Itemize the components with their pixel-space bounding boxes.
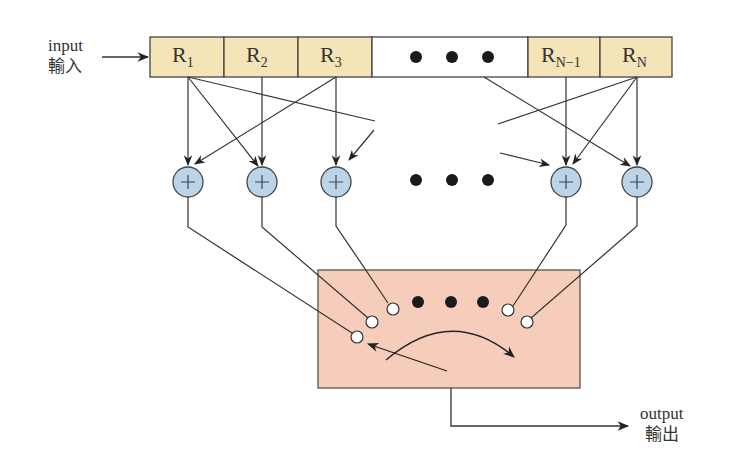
tap-connections bbox=[188, 77, 637, 166]
adder-3 bbox=[321, 167, 351, 197]
register-rn-1-label: RN−1 bbox=[541, 43, 581, 75]
commutator-box bbox=[318, 270, 580, 388]
adder-1 bbox=[173, 167, 203, 197]
output-label: output bbox=[640, 405, 683, 423]
output-arrow bbox=[451, 388, 628, 426]
input-label: input bbox=[48, 37, 83, 55]
adder-2 bbox=[247, 167, 277, 197]
input-label-zh: 輸入 bbox=[48, 57, 82, 75]
register-r3-label: R3 bbox=[320, 43, 342, 75]
register-r1-label: R1 bbox=[172, 43, 194, 75]
adder-5 bbox=[622, 167, 652, 197]
adder-4 bbox=[551, 167, 581, 197]
adder-ellipsis-dots bbox=[410, 174, 494, 186]
output-label-zh: 輸出 bbox=[645, 425, 679, 443]
register-rn-label: RN bbox=[622, 43, 647, 75]
register-r2-label: R2 bbox=[246, 43, 268, 75]
